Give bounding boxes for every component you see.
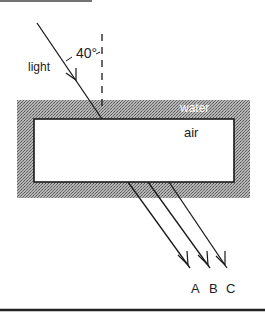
air-region	[34, 119, 234, 182]
light-label: light	[28, 61, 50, 73]
water-label: water	[180, 102, 209, 114]
angle-arrow-icon	[66, 57, 72, 61]
angle-label: 40°	[76, 46, 97, 60]
ray-label-a: A	[191, 282, 200, 295]
air-label: air	[184, 126, 198, 139]
ray-label-c: C	[226, 282, 235, 295]
ray-label-b: B	[209, 282, 218, 295]
diagram-canvas	[0, 0, 265, 312]
